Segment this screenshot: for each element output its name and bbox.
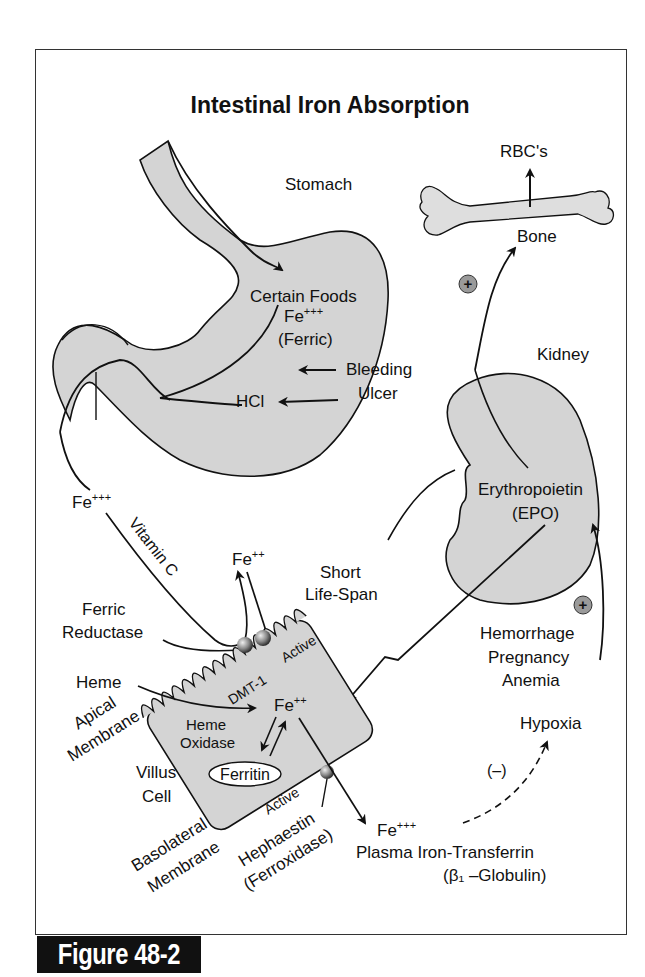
label-hypoxia: Hypoxia [520,714,582,733]
label-anemia: Anemia [502,671,560,690]
label-fe3-left: Fe+++ [72,491,111,512]
svg-text:+: + [464,275,473,292]
label-fe2-top: Fe++ [232,548,265,569]
label-kidney: Kidney [537,345,589,364]
figure-label-text: Figure 48-2 [58,938,180,970]
transporter-ball-2 [255,630,271,646]
label-negative: (–) [487,762,507,779]
diagram-title: Intestinal Iron Absorption [191,92,470,118]
label-ferric-reductase-1: Ferric [82,600,126,619]
label-cell: Cell [142,787,171,806]
label-pregnancy: Pregnancy [488,648,570,667]
label-epo: (EPO) [512,504,559,523]
label-hemorrhage: Hemorrhage [480,624,575,643]
label-plasma-transferrin: Plasma Iron-Transferrin [356,843,534,862]
label-ferric-reductase-2: Reductase [62,623,143,642]
label-globulin: (β₁ –Globulin) [443,866,546,885]
svg-text:+: + [579,596,588,613]
label-heme-oxidase-1: Heme [186,716,226,733]
label-stomach: Stomach [285,175,352,194]
label-bleeding: Bleeding [346,360,412,379]
label-fe3-plasma: Fe+++ [377,819,416,840]
label-certain-foods: Certain Foods [250,287,357,306]
iron-absorption-diagram: Intestinal Iron Absorption Stomach Certa… [0,0,645,977]
label-rbcs: RBC's [500,142,548,161]
label-ulcer: Ulcer [358,384,398,403]
label-heme: Heme [76,673,121,692]
label-short: Short [320,563,361,582]
label-ferric: (Ferric) [278,330,333,349]
label-hcl: HCl [236,392,264,411]
label-villus: Villus [136,763,176,782]
plus-circle-bone: + [459,275,477,293]
label-bone: Bone [517,227,557,246]
figure-label: Figure 48-2 [37,936,201,973]
label-life-span: Life-Span [305,585,378,604]
plus-circle-kidney: + [574,596,592,614]
label-vitamin-c: Vitamin C [126,514,182,579]
transporter-ball-1 [237,637,253,653]
label-ferritin: Ferritin [220,766,270,783]
transporter-ball-3 [320,765,334,779]
label-erythropoietin: Erythropoietin [478,480,583,499]
label-heme-oxidase-2: Oxidase [180,734,235,751]
